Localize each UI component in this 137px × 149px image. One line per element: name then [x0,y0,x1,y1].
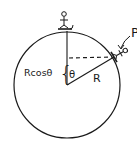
radius-label: R [93,72,101,85]
earth-diagram: P R θ { Rcosθ [0,0,137,149]
dashed-projection-line [69,57,112,58]
arrow-to-p-icon [121,36,130,48]
point-p-label: P [131,25,137,40]
height-rcostheta-label: Rcosθ [24,67,53,78]
person-at-pole-icon [58,12,73,29]
height-brace: { [59,61,73,86]
